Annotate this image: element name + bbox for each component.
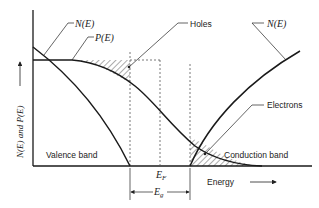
n-e-left-leader	[44, 23, 74, 55]
holes-region	[78, 60, 130, 83]
n-e-right-label: N(E)	[266, 18, 287, 30]
holes-label: Holes	[190, 19, 212, 29]
p-e-label: P(E)	[94, 32, 115, 44]
y-axis-label-group: N(E) and P(E)	[15, 62, 25, 159]
y-axis-label: N(E) and P(E)	[15, 106, 25, 159]
x-axis-label: Energy	[207, 177, 235, 187]
electrons-leader	[205, 105, 264, 154]
conduction-band-label: Conduction band	[224, 150, 289, 160]
valence-band-label: Valence band	[46, 150, 98, 160]
n-e-left-label: N(E)	[74, 18, 95, 30]
p-e-leader	[72, 37, 94, 60]
band-gap-label: Eg	[153, 186, 164, 199]
electrons-label: Electrons	[267, 100, 302, 110]
holes-leader	[129, 23, 188, 67]
fermi-level-label: EF	[155, 169, 167, 182]
band-diagram: N(E) P(E) Holes N(E) Electrons Valence b…	[0, 0, 319, 208]
